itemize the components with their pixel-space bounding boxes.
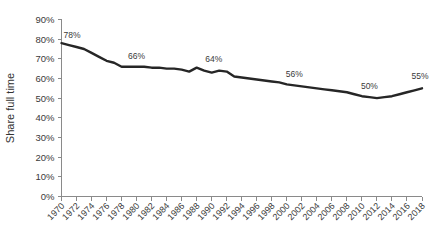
data-point-label: 56% [286, 69, 303, 79]
data-point-label: 50% [361, 81, 378, 91]
y-tick-label: 20% [35, 152, 55, 163]
data-point-label: 64% [205, 54, 222, 64]
data-point-label: 66% [128, 51, 145, 61]
y-tick-label: 60% [35, 73, 55, 84]
x-tick-label: 2018 [406, 201, 427, 222]
y-tick-label: 30% [35, 132, 55, 143]
y-tick-label: 90% [35, 14, 55, 25]
data-point-labels: 78%66%64%56%50%55% [64, 30, 429, 91]
data-point-label: 55% [411, 71, 428, 81]
data-point-label: 78% [64, 30, 81, 40]
y-tick-label: 70% [35, 53, 55, 64]
chart-container: Share full time 90%80%70%60%50%40%30%20%… [0, 0, 431, 242]
y-axis-title-text: Share full time [4, 73, 16, 143]
y-axis-tick-labels: 90%80%70%60%50%40%30%20%10%0% [35, 14, 61, 202]
y-tick-label: 50% [35, 93, 55, 104]
y-axis-title: Share full time [4, 73, 16, 143]
x-axis-tick-labels: 1970197219741976197819801982198419861988… [45, 197, 427, 223]
y-tick-label: 10% [35, 171, 55, 182]
axis-lines [62, 20, 423, 197]
y-tick-label: 0% [41, 191, 55, 202]
line-chart: Share full time 90%80%70%60%50%40%30%20%… [0, 0, 431, 242]
y-tick-label: 80% [35, 34, 55, 45]
y-tick-label: 40% [35, 112, 55, 123]
